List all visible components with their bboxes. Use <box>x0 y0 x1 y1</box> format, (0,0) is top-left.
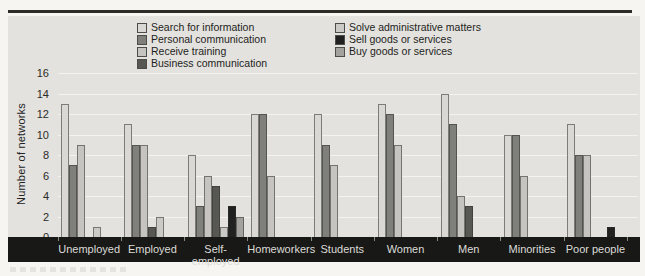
top-rule <box>8 10 632 13</box>
bar <box>520 176 528 238</box>
legend-label: Buy goods or services <box>349 46 452 57</box>
bar <box>259 114 267 237</box>
bar <box>314 114 322 237</box>
bar <box>267 176 275 238</box>
gridline <box>58 114 639 115</box>
bar <box>156 217 164 238</box>
chart-panel: Search for informationPersonal communica… <box>8 16 640 262</box>
band-tick <box>121 237 122 241</box>
cropped-caption-remnant <box>10 267 130 272</box>
bar <box>77 145 85 237</box>
band-tick <box>247 237 248 241</box>
bar <box>196 206 204 237</box>
legend-label: Receive training <box>151 46 226 57</box>
bar <box>124 124 132 237</box>
category-label: Poor people <box>564 243 627 255</box>
band-tick <box>564 237 565 241</box>
band-tick <box>58 237 59 241</box>
category-label: Students <box>311 243 374 255</box>
figure: Search for informationPersonal communica… <box>0 0 645 276</box>
y-tick-label: 16 <box>19 67 49 79</box>
legend-label: Sell goods or services <box>349 34 452 45</box>
legend-label: Search for information <box>151 22 254 33</box>
bar <box>204 176 212 238</box>
legend-label: Business communication <box>151 58 267 69</box>
category-label: Minorities <box>500 243 563 255</box>
bar <box>465 206 473 237</box>
bar <box>457 196 465 237</box>
band-tick <box>184 237 185 241</box>
legend-swatch <box>137 23 147 33</box>
category-band: UnemployedEmployedSelf-employedHomeworke… <box>8 237 640 262</box>
legend-swatch <box>335 35 345 45</box>
bar <box>394 145 402 237</box>
category-label: Employed <box>121 243 184 255</box>
bar <box>441 94 449 238</box>
band-tick <box>311 237 312 241</box>
legend-swatch <box>137 47 147 57</box>
gridline <box>58 135 639 136</box>
category-label: Self-employed <box>184 243 247 267</box>
legend-label: Solve administrative matters <box>349 22 481 33</box>
legend-swatch <box>137 35 147 45</box>
gridline <box>58 73 639 74</box>
bar <box>449 124 457 237</box>
legend-label: Personal communication <box>151 34 266 45</box>
bar <box>69 165 77 237</box>
bar <box>140 145 148 237</box>
bar <box>378 104 386 237</box>
band-tick <box>374 237 375 241</box>
band-tick <box>437 237 438 241</box>
bar <box>236 217 244 238</box>
bar <box>132 145 140 237</box>
legend-swatch <box>335 23 345 33</box>
y-axis-title: Number of networks <box>15 79 27 229</box>
band-tick <box>627 237 628 241</box>
bar <box>567 124 575 237</box>
bar <box>330 165 338 237</box>
category-label: Homeworkers <box>247 243 310 255</box>
bar <box>212 186 220 237</box>
bar <box>220 227 228 237</box>
bar <box>583 155 591 237</box>
legend-swatch <box>137 59 147 69</box>
bar <box>188 155 196 237</box>
category-label: Unemployed <box>58 243 121 255</box>
bar <box>512 135 520 238</box>
bar <box>251 114 259 237</box>
bar <box>607 227 615 237</box>
bar <box>148 227 156 237</box>
bar <box>93 227 101 237</box>
legend: Search for informationPersonal communica… <box>8 16 640 72</box>
gridline <box>58 94 639 95</box>
bar <box>228 206 236 237</box>
legend-swatch <box>335 47 345 57</box>
bar <box>575 155 583 237</box>
bar <box>322 145 330 237</box>
bar <box>61 104 69 237</box>
bar <box>386 114 394 237</box>
category-label: Women <box>374 243 437 255</box>
band-tick <box>500 237 501 241</box>
bar <box>504 135 512 238</box>
category-label: Men <box>437 243 500 255</box>
